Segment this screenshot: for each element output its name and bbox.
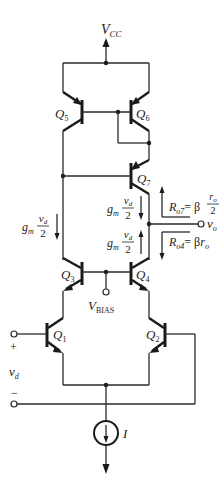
circuit-diagram: VCC Q5 Q6 Q7 vo (0, 0, 223, 493)
down-arrow-icon (55, 233, 60, 240)
input-minus-label: − (11, 386, 18, 400)
up-arrow-icon (139, 230, 144, 237)
transistor-q2: Q2 (146, 318, 165, 353)
down-arrow-icon (104, 436, 109, 443)
svg-text:vd: vd (124, 194, 133, 208)
ro7-annotation: Ro7= β ro 2 (160, 186, 220, 217)
q4-current-annotation: gm vd 2 (107, 228, 144, 255)
ground-arrow-icon (103, 464, 110, 474)
down-arrow-icon (139, 213, 144, 220)
svg-text:2: 2 (40, 227, 46, 239)
svg-text:gm: gm (107, 236, 119, 252)
svg-text:Q3: Q3 (61, 267, 74, 284)
svg-text:2: 2 (125, 209, 131, 221)
svg-text:Ro7= β: Ro7= β (168, 200, 200, 216)
vcc-arrow-icon (103, 38, 110, 47)
svg-text:2: 2 (125, 243, 131, 255)
svg-text:Q2: Q2 (146, 327, 159, 344)
input-label: vd (9, 364, 20, 381)
svg-text:ro: ro (209, 191, 217, 204)
output-terminal (198, 221, 204, 227)
svg-text:Q7: Q7 (137, 171, 150, 188)
svg-text:vd: vd (124, 228, 133, 242)
vbias-label: VBIAS (88, 298, 114, 315)
up-arrow-icon (160, 186, 165, 193)
current-source-label: I (122, 426, 128, 441)
svg-text:gm: gm (22, 220, 34, 236)
transistor-q7: Q7 (131, 160, 150, 194)
down-arrow-icon (160, 253, 165, 260)
output-label: vo (207, 216, 217, 233)
vbias-terminal (103, 289, 109, 295)
current-source: I (94, 421, 128, 445)
vcc-label: VCC (101, 22, 123, 39)
ro4-annotation: Ro4= βro (160, 232, 209, 260)
transistor-q4: Q4 (131, 258, 149, 291)
transistor-q3: Q3 (61, 258, 82, 291)
input-plus-terminal (11, 331, 17, 337)
svg-text:Ro4= βro: Ro4= βro (168, 235, 209, 251)
svg-text:Q4: Q4 (136, 267, 149, 284)
svg-text:Q6: Q6 (136, 106, 149, 123)
transistor-q5: Q5 (55, 92, 82, 131)
vcc-node (104, 61, 108, 65)
svg-text:2: 2 (211, 205, 216, 216)
q7-current-annotation: gm vd 2 (107, 194, 144, 221)
left-current-annotation: gm vd 2 (22, 212, 60, 240)
input-plus-label: + (10, 340, 17, 354)
svg-text:Q5: Q5 (55, 106, 68, 123)
svg-text:vd: vd (39, 212, 48, 226)
transistor-q6: Q6 (131, 92, 149, 131)
svg-text:gm: gm (107, 202, 119, 218)
svg-text:Q1: Q1 (53, 327, 66, 344)
vcc-supply: VCC (101, 22, 123, 63)
transistor-q1: Q1 (47, 318, 66, 353)
input-minus-terminal (11, 401, 17, 407)
